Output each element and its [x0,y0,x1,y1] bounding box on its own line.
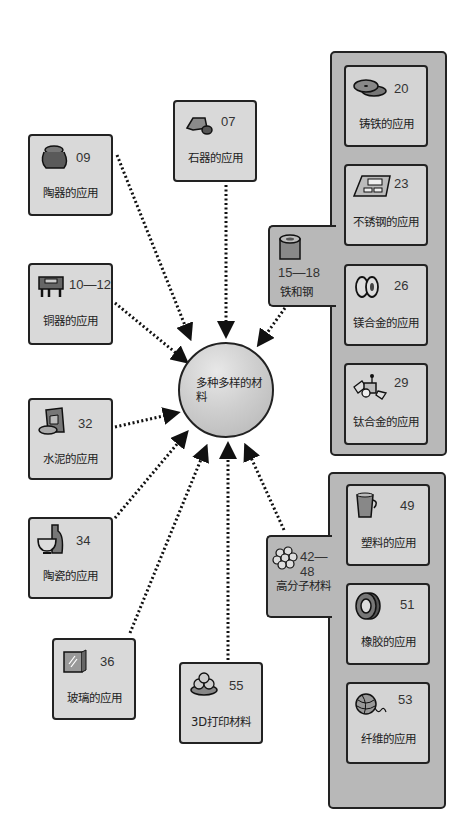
card-stainless-steel[interactable]: 23 不锈钢的应用 [344,164,428,246]
group-page-number: 42—48 [300,549,332,579]
molecule-icon [272,545,298,571]
card-pottery[interactable]: 09 陶器的应用 [28,134,113,216]
page-number: 53 [398,692,412,707]
card-3d-print[interactable]: 55 3D打印材料 [179,662,263,744]
card-label: 3D打印材料 [181,713,261,729]
bronze-vessel-icon [36,273,66,301]
card-cement[interactable]: 32 水泥的应用 [28,398,113,480]
card-bronze[interactable]: 10—12 铜器的应用 [28,263,113,345]
stainless-tray-icon [352,174,392,200]
page-number: 51 [400,597,414,612]
card-magnesium-alloy[interactable]: 26 镁合金的应用 [344,264,428,346]
page-number: 55 [229,678,243,693]
steel-roll-icon [278,233,304,261]
page-number: 26 [394,278,408,293]
card-label: 玻璃的应用 [54,689,134,705]
card-label: 镁合金的应用 [346,314,426,330]
group-label: 铁和钢 [280,283,313,299]
yarn-ball-icon [354,692,388,720]
glass-pane-icon [62,648,88,676]
page-number: 32 [78,416,92,431]
card-label: 石器的应用 [175,149,255,165]
card-label: 不锈钢的应用 [346,213,426,229]
3d-print-icon [189,672,219,698]
cast-iron-pan-icon [352,77,388,99]
page-number: 49 [400,498,414,513]
page-number: 07 [221,114,235,129]
card-label: 纤维的应用 [348,730,428,746]
card-fiber[interactable]: 53 纤维的应用 [346,682,430,764]
magnesium-wheel-icon [354,274,380,300]
group-iron-steel-tab[interactable]: 15—18 铁和钢 [268,225,336,307]
card-rubber[interactable]: 51 橡胶的应用 [346,583,430,665]
card-label: 铸铁的应用 [346,115,426,131]
card-plastic[interactable]: 49 塑料的应用 [346,484,430,566]
card-label: 陶瓷的应用 [30,567,111,583]
card-label: 橡胶的应用 [348,633,428,649]
page-number: 10—12 [69,277,111,292]
card-label: 铜器的应用 [30,312,111,328]
cement-icon [38,406,68,436]
card-cast-iron[interactable]: 20 铸铁的应用 [344,65,428,147]
card-label: 塑料的应用 [348,534,428,550]
satellite-icon [352,373,390,403]
group-polymer-tab[interactable]: 42—48 高分子材料 [266,535,332,618]
page-number: 34 [76,533,90,548]
group-label: 高分子材料 [276,577,331,593]
card-titanium-alloy[interactable]: 29 钛合金的应用 [344,363,428,445]
group-page-number: 15—18 [278,265,320,280]
page-number: 23 [394,176,408,191]
plastic-cup-icon [354,492,380,520]
page-number: 20 [394,81,408,96]
page-number: 36 [100,654,114,669]
card-glass[interactable]: 36 玻璃的应用 [52,638,136,720]
hub-title: 多种多样的材料 [196,376,264,404]
stone-tool-icon [183,112,215,136]
page-number: 29 [394,375,408,390]
pottery-icon [38,144,72,172]
materials-hub[interactable]: 多种多样的材料 [178,342,274,438]
page-number: 09 [76,150,90,165]
card-label: 钛合金的应用 [346,413,426,429]
card-label: 水泥的应用 [30,450,111,466]
card-stone[interactable]: 07 石器的应用 [173,100,257,182]
rubber-tire-icon [354,591,382,621]
card-label: 陶器的应用 [30,184,111,200]
card-ceramic[interactable]: 34 陶瓷的应用 [28,517,113,599]
ceramic-vase-icon [36,523,66,557]
